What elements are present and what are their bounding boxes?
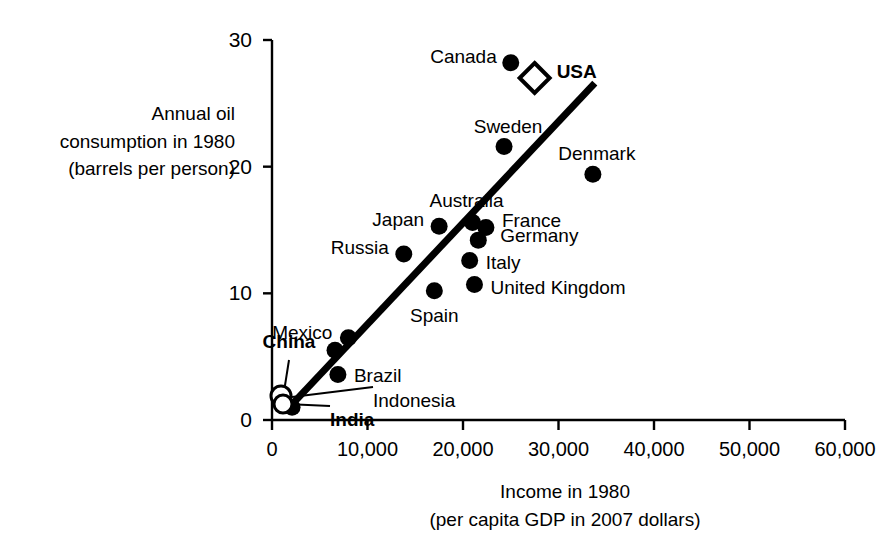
chart-figure: 0102030 010,00020,00030,00040,00050,0006… xyxy=(0,0,885,554)
x-axis-title: Income in 1980 (per capita GDP in 2007 d… xyxy=(400,478,730,533)
x-tick-label: 50,000 xyxy=(700,438,800,461)
x-tick-label: 30,000 xyxy=(509,438,609,461)
point-label: Australia xyxy=(317,191,617,210)
point-label: Italy xyxy=(486,253,521,272)
x-tick-label: 20,000 xyxy=(413,438,513,461)
y-axis-title-line2: consumption in 1980 xyxy=(40,128,235,156)
point-marker-diamond xyxy=(520,63,550,93)
point-label: Sweden xyxy=(358,117,658,136)
point-marker xyxy=(461,252,478,269)
point-marker xyxy=(329,366,346,383)
point-marker xyxy=(466,276,483,293)
y-tick-label: 10 xyxy=(192,281,252,305)
point-marker xyxy=(584,166,601,183)
y-tick-label: 0 xyxy=(192,408,252,432)
point-marker xyxy=(431,218,448,235)
x-axis-title-line1: Income in 1980 xyxy=(400,478,730,506)
x-axis-title-line2: (per capita GDP in 2007 dollars) xyxy=(400,506,730,534)
point-marker xyxy=(470,232,487,249)
point-label: Russia xyxy=(89,238,389,257)
point-label: USA xyxy=(557,62,597,81)
x-tick-label: 40,000 xyxy=(604,438,704,461)
x-tick-label: 60,000 xyxy=(795,438,885,461)
open-markers xyxy=(271,386,292,413)
x-tick-label: 0 xyxy=(222,438,322,461)
y-axis-title-line3: (barrels per person) xyxy=(40,155,235,183)
India-open xyxy=(274,395,292,413)
point-label: Germany xyxy=(500,226,578,245)
point-marker xyxy=(502,54,519,71)
point-label: Japan xyxy=(124,210,424,229)
point-label: United Kingdom xyxy=(490,278,625,297)
leader-label-india: India xyxy=(330,410,374,429)
y-axis-title: Annual oilconsumption in 1980(barrels pe… xyxy=(40,100,235,183)
y-axis-title-line1: Annual oil xyxy=(40,100,235,128)
leader-label-indonesia: Indonesia xyxy=(373,391,455,410)
x-tick-label: 10,000 xyxy=(318,438,418,461)
point-label: Denmark xyxy=(447,144,747,163)
chart-canvas xyxy=(0,0,885,554)
leader-label-china: China xyxy=(139,332,439,351)
point-marker xyxy=(426,282,443,299)
point-marker xyxy=(395,246,412,263)
point-label: Canada xyxy=(197,47,497,66)
point-label: Brazil xyxy=(354,366,402,385)
